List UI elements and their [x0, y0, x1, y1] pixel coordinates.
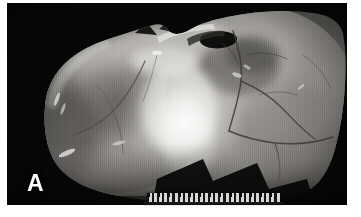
specimen-photograph-canvas [7, 3, 347, 205]
scale-bar-major-ticks [147, 193, 280, 197]
scale-bar [147, 193, 280, 202]
specimen-photograph [7, 3, 347, 205]
scale-bar-shadow [144, 202, 283, 206]
figure-panel: A [0, 0, 361, 217]
panel-label: A [27, 172, 44, 195]
